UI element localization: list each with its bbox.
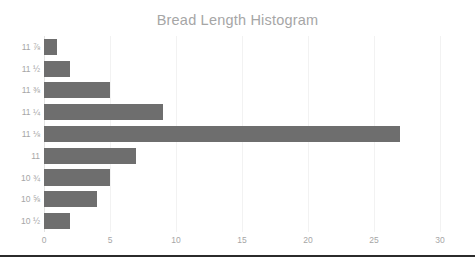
bar-11[interactable] [44,148,136,164]
y-tick-label: 10 ¾ [0,174,40,183]
y-tick-label: 11 ⅜ [0,86,40,95]
bars-layer [44,36,440,232]
bar-10-¾[interactable] [44,169,110,185]
y-tick-label: 10 ⅝ [0,195,40,204]
bar-row [44,61,440,77]
bottom-divider-rule [0,255,475,257]
gridline-30 [440,36,441,232]
bar-11-¼[interactable] [44,104,163,120]
y-axis-tick-labels: 10 ½10 ⅝10 ¾1111 ⅛11 ¼11 ⅜11 ½11 ⅞ [0,36,40,232]
y-tick-label: 11 ⅞ [0,43,40,52]
y-tick-label: 11 ⅛ [0,130,40,139]
bar-row [44,39,440,55]
bar-11-⅜[interactable] [44,82,110,98]
bar-10-⅝[interactable] [44,191,97,207]
x-tick-label: 15 [237,236,246,245]
bar-11-⅛[interactable] [44,126,400,142]
y-tick-label: 11 [0,152,40,161]
bar-row [44,191,440,207]
chart-title: Bread Length Histogram [0,12,475,28]
bar-11-⅞[interactable] [44,39,57,55]
y-tick-label: 11 ¼ [0,108,40,117]
bar-11-½[interactable] [44,61,70,77]
x-tick-label: 20 [303,236,312,245]
bar-row [44,169,440,185]
bread-length-histogram-figure: Bread Length Histogram 10 ½10 ⅝10 ¾1111 … [0,0,475,271]
x-tick-label: 0 [42,236,47,245]
y-tick-label: 10 ½ [0,217,40,226]
x-tick-label: 25 [369,236,378,245]
bar-row [44,82,440,98]
x-tick-label: 5 [108,236,113,245]
bar-row [44,104,440,120]
bar-row [44,126,440,142]
x-axis-tick-labels: 051015202530 [44,236,440,250]
bar-10-½[interactable] [44,213,70,229]
x-tick-label: 10 [171,236,180,245]
bar-row [44,148,440,164]
bar-row [44,213,440,229]
y-tick-label: 11 ½ [0,65,40,74]
plot-area [44,36,440,232]
x-tick-label: 30 [435,236,444,245]
